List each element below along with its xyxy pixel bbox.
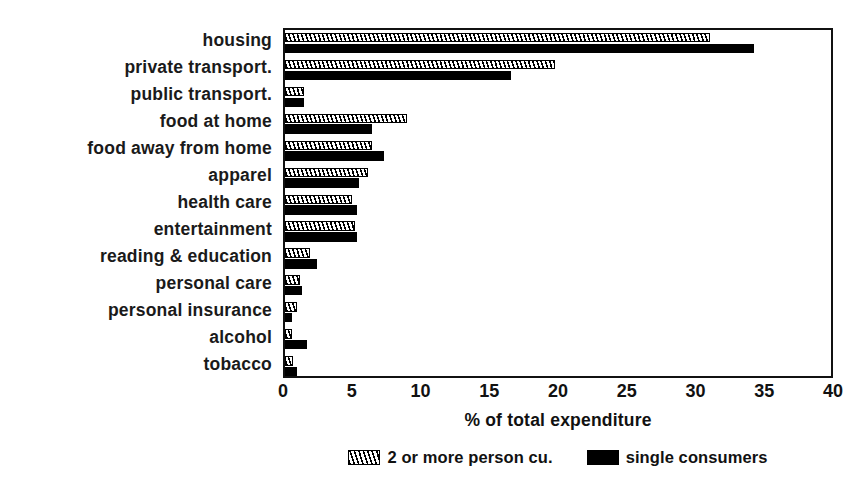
category-label: apparel xyxy=(0,167,272,185)
bar-two-or-more xyxy=(285,114,407,124)
bar-single xyxy=(285,151,384,161)
bar-two-or-more xyxy=(285,329,292,339)
bar-single xyxy=(285,71,511,81)
category-label: food at home xyxy=(0,113,272,131)
expenditure-bar-chart: housingprivate transport.public transpor… xyxy=(0,0,862,494)
bar-single xyxy=(285,286,302,296)
bar-two-or-more xyxy=(285,248,310,258)
category-label: personal insurance xyxy=(0,302,272,320)
bar-two-or-more xyxy=(285,221,355,231)
bar-single xyxy=(285,313,292,323)
category-label: private transport. xyxy=(0,59,272,77)
plot-area xyxy=(283,28,833,378)
category-label: public transport. xyxy=(0,86,272,104)
legend-label-single: single consumers xyxy=(626,448,768,467)
bar-two-or-more xyxy=(285,141,372,151)
bar-two-or-more xyxy=(285,302,297,312)
legend-swatch-solid-icon xyxy=(587,450,619,465)
category-axis-labels: housingprivate transport.public transpor… xyxy=(0,28,272,378)
x-tick-label: 25 xyxy=(617,382,637,400)
x-axis-title: % of total expenditure xyxy=(283,410,833,431)
bar-two-or-more xyxy=(285,33,710,43)
x-tick-label: 15 xyxy=(479,382,499,400)
category-label: entertainment xyxy=(0,221,272,239)
legend-item-single: single consumers xyxy=(587,448,768,467)
category-label: alcohol xyxy=(0,329,272,347)
legend-label-two-or-more: 2 or more person cu. xyxy=(387,448,552,467)
bar-single xyxy=(285,340,307,350)
legend-item-two-or-more: 2 or more person cu. xyxy=(348,448,552,467)
bar-single xyxy=(285,232,357,242)
category-label: personal care xyxy=(0,275,272,293)
category-label: housing xyxy=(0,32,272,50)
bar-single xyxy=(285,44,754,54)
bar-single xyxy=(285,178,359,188)
x-tick-label: 40 xyxy=(823,382,843,400)
bar-single xyxy=(285,205,357,215)
x-tick-label: 10 xyxy=(410,382,430,400)
category-label: tobacco xyxy=(0,356,272,374)
x-tick-label: 35 xyxy=(754,382,774,400)
chart-legend: 2 or more person cu. single consumers xyxy=(283,448,833,467)
category-label: food away from home xyxy=(0,140,272,158)
bar-single xyxy=(285,367,297,377)
bar-two-or-more xyxy=(285,168,368,178)
bar-two-or-more xyxy=(285,87,304,97)
category-label: reading & education xyxy=(0,248,272,266)
category-label: health care xyxy=(0,194,272,212)
bar-two-or-more xyxy=(285,195,352,205)
bar-single xyxy=(285,259,317,269)
x-tick-label: 20 xyxy=(548,382,568,400)
x-tick-label: 5 xyxy=(347,382,357,400)
legend-swatch-hatched-icon xyxy=(348,450,380,465)
bar-two-or-more xyxy=(285,60,555,70)
x-tick-label: 0 xyxy=(278,382,288,400)
bar-two-or-more xyxy=(285,275,300,285)
x-tick-label: 30 xyxy=(685,382,705,400)
x-axis-tick-labels: 0510152025303540 xyxy=(0,382,862,412)
bar-single xyxy=(285,124,372,134)
bars-layer xyxy=(285,30,831,376)
bar-single xyxy=(285,98,304,108)
bar-two-or-more xyxy=(285,356,293,366)
